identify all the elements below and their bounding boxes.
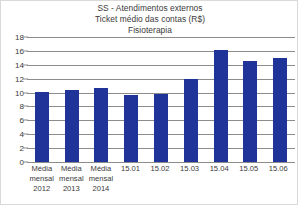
bar-slot [57,37,87,162]
y-axis-tick-marks [23,37,28,162]
x-axis-tick-label-line: 15.02 [145,164,175,174]
x-axis-tick-label: 15.05 [234,164,264,194]
y-axis-tick-mark [23,37,28,38]
chart-container: SS - Atendimentos externos Ticket médio … [0,0,298,205]
bar[interactable] [214,50,228,162]
chart-title: SS - Atendimentos externos [1,3,298,14]
x-axis-tick-label: 15.02 [145,164,175,194]
x-axis: Médiamensal2012Médiamensal2013Médiamensa… [27,164,293,194]
y-axis-tick-mark [23,120,28,121]
bar-slot [265,37,295,162]
plot-area [27,37,295,162]
bar-slot [27,37,57,162]
y-axis-tick-mark [23,106,28,107]
x-axis-tick-label: 15.01 [116,164,146,194]
x-axis-tick-label-line: 15.01 [116,164,146,174]
bar[interactable] [94,88,108,162]
gridline [27,162,295,163]
x-axis-tick-label: Médiamensal2014 [86,164,116,194]
bar[interactable] [35,92,49,162]
bar-series [27,37,295,162]
bar[interactable] [273,58,287,162]
bar[interactable] [65,90,79,162]
x-axis-tick-label-line: 15.04 [204,164,234,174]
bar-slot [146,37,176,162]
x-axis-tick-label: 15.04 [204,164,234,194]
y-axis-tick-mark [23,50,28,51]
x-axis-tick-label: 15.03 [175,164,205,194]
plot-wrapper: 181614121086420 [1,37,298,162]
chart-subtitle-secondary: Fisioterapia [1,25,298,36]
x-axis-tick-label-line: Média [57,164,87,174]
x-axis-tick-label-line: 2013 [57,184,87,194]
x-axis-tick-label-line: 2012 [27,184,57,194]
chart-subtitle: Ticket médio das contas (R$) [1,14,298,25]
y-axis-tick-mark [23,148,28,149]
x-axis-tick-label-line: mensal [27,174,57,184]
bar[interactable] [243,61,257,162]
bar-slot [87,37,117,162]
bar-slot [176,37,206,162]
x-axis-tick-label: 15.06 [264,164,294,194]
x-axis-tick-label-line: 2014 [86,184,116,194]
x-axis-tick-label-line: mensal [86,174,116,184]
bar[interactable] [154,94,168,162]
bar[interactable] [184,79,198,162]
y-axis-tick-mark [23,134,28,135]
y-axis-tick-mark [23,64,28,65]
x-axis-tick-label: Médiamensal2013 [57,164,87,194]
bar[interactable] [124,95,138,162]
x-axis-tick-label-line: 15.05 [234,164,264,174]
x-axis-tick-label-line: mensal [57,174,87,184]
x-axis-tick-label: Médiamensal2012 [27,164,57,194]
bar-slot [235,37,265,162]
x-axis-tick-label-line: Média [27,164,57,174]
bar-slot [116,37,146,162]
y-axis-tick-mark [23,78,28,79]
y-axis-tick-mark [23,162,28,163]
x-axis-tick-label-line: 15.03 [175,164,205,174]
x-axis-tick-label-line: 15.06 [264,164,294,174]
y-axis-tick-mark [23,92,28,93]
chart-title-block: SS - Atendimentos externos Ticket médio … [1,3,298,36]
bar-slot [206,37,236,162]
x-axis-tick-label-line: Média [86,164,116,174]
